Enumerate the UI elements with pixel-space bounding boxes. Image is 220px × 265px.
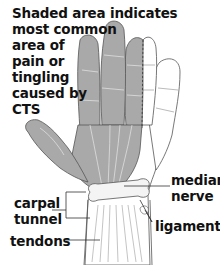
caption-line: CTS (12, 101, 177, 117)
label-tendons: tendons (10, 233, 70, 249)
diagram-caption: Shaded area indicates most common area o… (12, 5, 177, 117)
caption-line: Shaded area indicates (12, 5, 177, 21)
label-line: nerve (171, 188, 220, 204)
label-line: tunnel (14, 211, 62, 227)
label-line: carpal (14, 195, 62, 211)
caption-line: most common (12, 21, 177, 37)
cts-hand-diagram: Shaded area indicates most common area o… (0, 0, 220, 265)
label-carpal-tunnel: carpal tunnel (14, 195, 62, 227)
caption-line: caused by (12, 85, 177, 101)
caption-line: area of (12, 37, 177, 53)
caption-line: pain or (12, 53, 177, 69)
label-ligaments: ligaments (155, 218, 220, 234)
caption-line: tingling (12, 69, 177, 85)
label-line: median (171, 172, 220, 188)
label-median-nerve: median nerve (171, 172, 220, 204)
